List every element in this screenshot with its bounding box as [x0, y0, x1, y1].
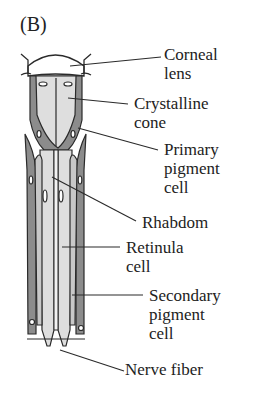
label-retinula-cell: Retinula cell [126, 238, 184, 276]
label-nerve-fiber: Nerve fiber [125, 360, 203, 379]
label-crystalline-cone: Crystalline cone [134, 94, 209, 132]
label-rhabdom: Rhabdom [142, 213, 208, 232]
label-primary-pigment-cell: Primary pigment cell [164, 140, 220, 197]
label-corneal-lens: Corneal lens [164, 45, 218, 83]
primary-pigment-cells [30, 76, 82, 150]
rhabdom-shape [54, 150, 58, 330]
label-secondary-pigment-cell: Secondary pigment cell [149, 286, 221, 343]
